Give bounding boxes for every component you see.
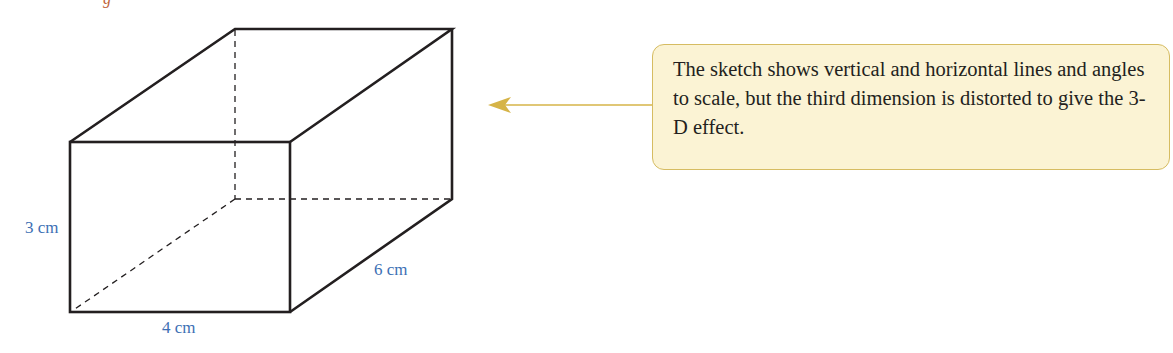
pointer-arrow [488, 97, 652, 113]
height-label: 3 cm [25, 218, 59, 238]
callout-text: The sketch shows vertical and horizontal… [673, 58, 1146, 138]
explanation-callout: The sketch shows vertical and horizontal… [652, 44, 1170, 170]
cuboid-figure: g 3 cm 4 cm 6 cm The sketch shows vertic… [0, 0, 1173, 353]
width-label: 4 cm [162, 318, 196, 338]
depth-label: 6 cm [374, 260, 408, 280]
